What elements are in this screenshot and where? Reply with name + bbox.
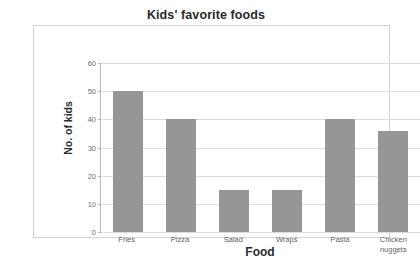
y-axis-tick-label: 40 [88,115,96,124]
bar-slot [261,63,314,232]
chart-title: Kids' favorite foods [0,8,412,22]
x-axis-title: Food [100,245,420,259]
bar-slot [154,63,207,232]
x-axis-tick-label-line: Wraps [276,235,298,244]
y-axis-tick-label: 10 [88,199,96,208]
bar-slot [207,63,260,232]
x-axis-tick-label-line: Salad [224,235,243,244]
bar-fries[interactable] [113,91,143,232]
gridline [101,232,420,233]
y-axis-tick-label: 60 [88,59,96,68]
bar-chicken-nuggets[interactable] [378,131,408,232]
bar-pasta[interactable] [325,119,355,232]
bar-salad[interactable] [219,190,249,232]
y-axis-title: No. of kids [62,88,74,168]
y-axis-tick-label: 30 [88,143,96,152]
bar-wraps[interactable] [272,190,302,232]
bar-slot [367,63,420,232]
y-axis-tick-label: 50 [88,87,96,96]
x-axis-tick-label-line: Pizza [171,235,189,244]
y-axis-tick-mark [98,232,101,233]
y-axis-tick-label: 0 [92,228,96,237]
chart-plot-frame: No. of kids 0102030405060 FriesPizzaSala… [33,25,390,238]
bar-pizza[interactable] [166,119,196,232]
y-axis-tick-label: 20 [88,171,96,180]
x-axis-tick-label-line: Chicken [380,235,407,244]
bar-series [101,63,420,232]
x-axis-tick-label-line: Pasta [330,235,349,244]
plot-area: 0102030405060 [100,63,420,233]
bar-slot [101,63,154,232]
x-axis-tick-label-line: Fries [118,235,135,244]
bar-slot [314,63,367,232]
